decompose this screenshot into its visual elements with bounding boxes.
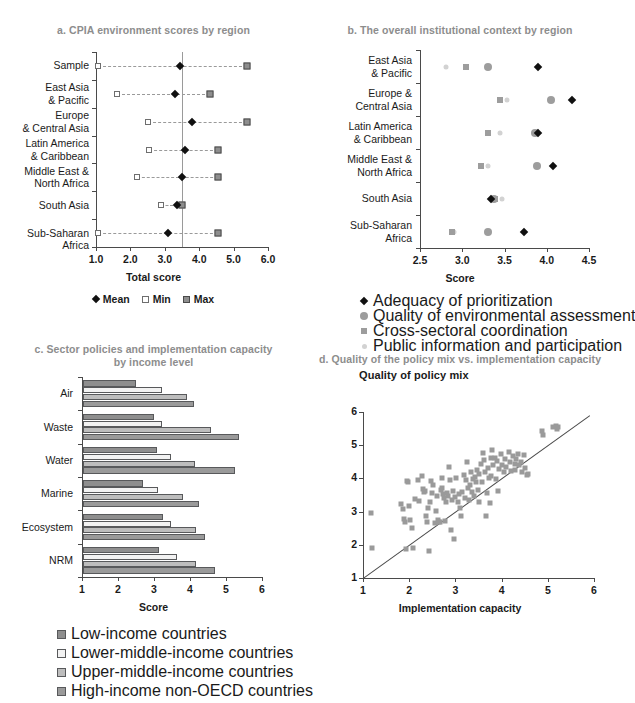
panel-d-data-point bbox=[425, 505, 430, 510]
panel-d-y-tick bbox=[359, 478, 363, 479]
panel-d-data-point bbox=[407, 503, 412, 508]
panel-c-bar bbox=[83, 461, 195, 467]
panel-a-mean-marker bbox=[164, 229, 172, 237]
panel-b-x-ticklabel: 2.5 bbox=[404, 254, 436, 266]
panel-b-x-tick bbox=[505, 248, 506, 252]
panel-b-prioritization-marker bbox=[534, 62, 542, 70]
panel-d-y-ticklabel: 6 bbox=[337, 405, 357, 417]
panel-c-y-tick bbox=[78, 510, 82, 511]
color-swatch-icon bbox=[57, 649, 66, 658]
panel-c-x-axis bbox=[82, 577, 263, 578]
panel-c-x-tick bbox=[226, 577, 227, 581]
panel-b-participation-marker bbox=[498, 130, 503, 135]
panel-b-row-label-line: Europe & bbox=[317, 87, 412, 100]
panel-c-bar bbox=[83, 387, 162, 393]
panel-d-data-point bbox=[454, 476, 459, 481]
panel-d-data-point bbox=[423, 513, 428, 518]
panel-c-plot-area: AirWasteWaterMarineEcosystemNRM123456Sco… bbox=[0, 345, 307, 703]
panel-c-x-axis-label: Score bbox=[0, 601, 307, 613]
panel-c-x-ticklabel: 4 bbox=[174, 583, 206, 595]
panel-d-data-point bbox=[431, 483, 436, 488]
panel-d-data-point bbox=[402, 519, 407, 524]
panel-a-row-label-line: Sub-Saharan bbox=[2, 227, 89, 240]
panel-d-data-point bbox=[468, 483, 473, 488]
panel-c-legend-item-3: High-income non-OECD countries bbox=[57, 682, 313, 700]
panel-d-data-point bbox=[370, 545, 375, 550]
panel-d-y-ticklabel: 2 bbox=[337, 538, 357, 550]
panel-b-x-ticklabel: 4.0 bbox=[531, 254, 563, 266]
panel-d-data-point bbox=[477, 499, 482, 504]
panel-d-data-point bbox=[446, 465, 451, 470]
panel-c-bar bbox=[83, 514, 163, 520]
panel-d-data-point bbox=[522, 466, 527, 471]
panel-a-y-tick bbox=[92, 219, 96, 220]
panel-c-bar bbox=[83, 427, 211, 433]
panel-b-assessment-marker bbox=[484, 63, 492, 71]
panel-d-data-point bbox=[484, 491, 489, 496]
panel-d-data-point bbox=[452, 536, 457, 541]
panel-c-bar bbox=[83, 434, 239, 440]
panel-d-x-ticklabel: 5 bbox=[532, 584, 564, 596]
panel-a-row-label-line: Africa bbox=[2, 239, 89, 252]
panel-d-data-point bbox=[458, 506, 463, 511]
panel-b-row-label-line: Sub-Saharan bbox=[317, 219, 412, 232]
panel-d-data-point bbox=[433, 508, 438, 513]
panel-a-mean-marker bbox=[188, 117, 196, 125]
panel-a-y-tick bbox=[92, 108, 96, 109]
panel-a-x-ticklabel: 3.0 bbox=[149, 253, 181, 265]
panel-c-x-ticklabel: 3 bbox=[138, 583, 170, 595]
panel-b-y-tick bbox=[416, 149, 420, 150]
panel-d-data-point bbox=[478, 462, 483, 467]
panel-b-prioritization-marker bbox=[548, 161, 556, 169]
panel-d-y-ticklabel: 4 bbox=[337, 471, 357, 483]
panel-a-range-connector bbox=[98, 233, 218, 234]
panel-d-data-point bbox=[473, 480, 478, 485]
panel-c-legend-item-0: Low-income countries bbox=[57, 625, 227, 643]
panel-b-prioritization-marker bbox=[534, 128, 542, 136]
panel-d-y-ticklabel: 3 bbox=[337, 505, 357, 517]
panel-a-min-marker bbox=[95, 230, 101, 236]
panel-a-max-marker bbox=[206, 90, 213, 97]
panel-a-row-label-5: South Asia bbox=[2, 199, 89, 212]
panel-d-data-point bbox=[443, 518, 448, 523]
panel-d-data-point bbox=[447, 477, 452, 482]
panel-b-x-axis-label: Score bbox=[307, 272, 613, 284]
panel-b-row-label-line: Central Asia bbox=[317, 100, 412, 113]
panel-b-x-tick bbox=[547, 248, 548, 252]
panel-d-data-point bbox=[448, 527, 453, 532]
panel-d-data-point bbox=[464, 460, 469, 465]
panel-b-participation-marker bbox=[485, 163, 490, 168]
open-square-icon bbox=[142, 296, 149, 303]
panel-c-row-label-5: NRM bbox=[0, 554, 73, 567]
panel-a-legend: MeanMinMax bbox=[0, 293, 307, 305]
panel-a-row-label-line: Latin America bbox=[2, 137, 89, 150]
panel-d-data-point bbox=[526, 472, 531, 477]
panel-c-y-tick bbox=[78, 544, 82, 545]
panel-d-y-ticklabel: 1 bbox=[337, 571, 357, 583]
panel-a-legend-label: Mean bbox=[103, 293, 130, 305]
panel-a-row-label-3: Latin America& Caribbean bbox=[2, 137, 89, 162]
panel-a-row-label-line: North Africa bbox=[2, 177, 89, 190]
panel-c-x-tick bbox=[154, 577, 155, 581]
panel-b-participation-marker bbox=[499, 196, 504, 201]
panel-d-data-point bbox=[405, 480, 410, 485]
panel-a-row-label-2: Europe& Central Asia bbox=[2, 109, 89, 134]
panel-a-min-marker bbox=[146, 147, 152, 153]
panel-b-coordination-marker bbox=[478, 163, 484, 169]
panel-d-data-point bbox=[458, 514, 463, 519]
panel-a-legend-item-2: Max bbox=[183, 293, 214, 305]
panel-d-x-ticklabel: 4 bbox=[486, 584, 518, 596]
panel-a-legend-label: Min bbox=[153, 293, 171, 305]
panel-a-legend-item-1: Min bbox=[142, 293, 171, 305]
panel-b-coordination-marker bbox=[497, 97, 503, 103]
panel-a-max-marker bbox=[215, 174, 222, 181]
panel-a-row-label-6: Sub-SaharanAfrica bbox=[2, 227, 89, 252]
panel-b-row-label-3: Middle East &North Africa bbox=[317, 153, 412, 178]
panel-d-data-point bbox=[471, 494, 476, 499]
panel-a-x-tick bbox=[234, 247, 235, 251]
panel-c-legend-label: Upper-middle-income countries bbox=[71, 663, 293, 681]
panel-a-y-tick bbox=[92, 163, 96, 164]
panel-d-data-point bbox=[485, 466, 490, 471]
panel-d-x-tick bbox=[409, 578, 410, 582]
panel-a-min-marker bbox=[134, 174, 140, 180]
